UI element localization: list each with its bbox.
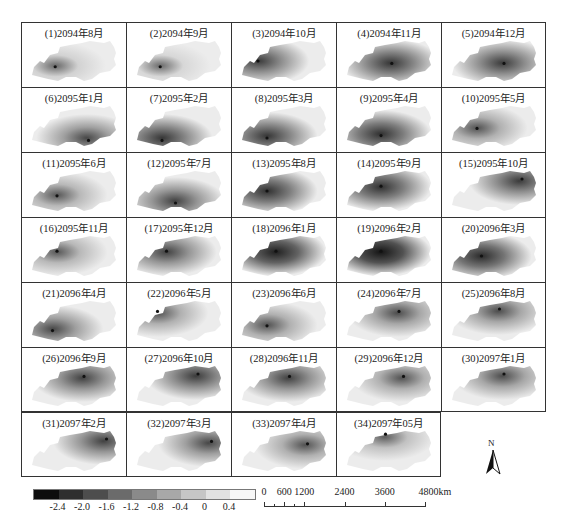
scale-label: 600 [277, 486, 292, 497]
north-arrow-icon [482, 450, 504, 476]
anomaly-map [240, 232, 330, 280]
legend-tick: -2.0 [74, 501, 90, 512]
anomaly-map [135, 102, 225, 150]
map-panel: (22)2096年5月 [126, 282, 231, 347]
anomaly-map [30, 167, 120, 215]
scale-bar: 06001200240036004800km [258, 486, 458, 516]
legend-swatch [181, 490, 206, 499]
scale-tick [284, 502, 285, 507]
anomaly-map [345, 427, 435, 475]
map-panel: (8)2095年3月 [231, 87, 336, 152]
legend-swatch [157, 490, 182, 499]
legend-swatch [59, 490, 84, 499]
legend-swatch [34, 490, 59, 499]
panel-row: (1)2094年8月(2)2094年9月(3)2094年10月(4)2094年1… [21, 22, 546, 87]
scale-label: 3600 [375, 486, 395, 497]
map-panel: (17)2095年12月 [126, 217, 231, 282]
anomaly-map [135, 232, 225, 280]
map-panel: (16)2095年11月 [21, 217, 126, 282]
legend-tick-labels: -2.4-2.0-1.6-1.2-0.8-0.400.4 [33, 500, 256, 514]
anomaly-map [30, 297, 120, 345]
color-legend: -2.4-2.0-1.6-1.2-0.8-0.400.4 [33, 489, 256, 514]
anomaly-map [240, 37, 330, 85]
scale-tick [345, 502, 346, 507]
legend-swatch [132, 490, 157, 499]
map-panel: (11)2095年6月 [21, 152, 126, 217]
map-panel: (15)2095年10月 [441, 152, 546, 217]
map-panel: (5)2094年12月 [441, 22, 546, 87]
anomaly-map [135, 362, 225, 410]
anomaly-map [450, 102, 540, 150]
map-panel: (19)2096年2月 [336, 217, 441, 282]
legend-tick: 0 [202, 501, 207, 512]
anomaly-map [135, 37, 225, 85]
scale-tick [425, 502, 426, 507]
anomaly-map [30, 362, 120, 410]
map-panel: (20)2096年3月 [441, 217, 546, 282]
map-panel: (31)2097年2月 [21, 412, 126, 477]
scale-tick [385, 502, 386, 507]
map-panel: (10)2095年5月 [441, 87, 546, 152]
map-panel: (25)2096年8月 [441, 282, 546, 347]
anomaly-map [345, 37, 435, 85]
panel-row: (6)2095年1月(7)2095年2月(8)2095年3月(9)2095年4月… [21, 87, 546, 152]
map-panel: (13)2095年8月 [231, 152, 336, 217]
north-arrow: N [482, 440, 504, 474]
map-panel: (6)2095年1月 [21, 87, 126, 152]
scale-label: 4800km [419, 486, 452, 497]
legend-swatch [206, 490, 231, 499]
map-panel: (34)2097年05月 [336, 412, 441, 477]
legend-tick: -1.6 [99, 501, 115, 512]
map-panel: (1)2094年8月 [21, 22, 126, 87]
anomaly-map [240, 297, 330, 345]
legend-tick: -1.2 [123, 501, 139, 512]
panel-row: (31)2097年2月(32)2097年3月(33)2097年4月(34)209… [21, 412, 546, 477]
scale-minor-tick [294, 504, 295, 507]
legend-tick: -0.4 [172, 501, 188, 512]
map-panel: (27)2096年10月 [126, 347, 231, 412]
scale-label: 2400 [335, 486, 355, 497]
north-label: N [488, 438, 495, 448]
legend-swatch [83, 490, 108, 499]
anomaly-map [30, 102, 120, 150]
anomaly-map [240, 102, 330, 150]
map-panel: (7)2095年2月 [126, 87, 231, 152]
anomaly-map [345, 297, 435, 345]
legend-tick: -0.8 [148, 501, 164, 512]
map-panel: (23)2096年6月 [231, 282, 336, 347]
panel-row: (21)2096年4月(22)2096年5月(23)2096年6月(24)209… [21, 282, 546, 347]
panel-row: (11)2095年6月(12)2095年7月(13)2095年8月(14)209… [21, 152, 546, 217]
map-panel: (29)2096年12月 [336, 347, 441, 412]
anomaly-map [450, 167, 540, 215]
legend-swatch [108, 490, 133, 499]
map-panel: (21)2096年4月 [21, 282, 126, 347]
legend-tick: 0.4 [223, 501, 236, 512]
anomaly-map [345, 167, 435, 215]
anomaly-map [135, 167, 225, 215]
anomaly-map [240, 427, 330, 475]
panel-row: (26)2096年9月(27)2096年10月(28)2096年11月(29)2… [21, 347, 546, 412]
scale-label: 1200 [294, 486, 314, 497]
anomaly-map [30, 37, 120, 85]
anomaly-map [30, 427, 120, 475]
scale-tick [304, 502, 305, 507]
scale-tick [264, 502, 265, 507]
map-panel-grid: (1)2094年8月(2)2094年9月(3)2094年10月(4)2094年1… [21, 22, 546, 477]
map-panel: (24)2096年7月 [336, 282, 441, 347]
anomaly-map [345, 102, 435, 150]
anomaly-map [450, 297, 540, 345]
anomaly-map [345, 232, 435, 280]
map-panel: (30)2097年1月 [441, 347, 546, 412]
anomaly-map [135, 427, 225, 475]
panel-row: (16)2095年11月(17)2095年12月(18)2096年1月(19)2… [21, 217, 546, 282]
map-panel: (26)2096年9月 [21, 347, 126, 412]
map-panel: (14)2095年9月 [336, 152, 441, 217]
anomaly-map [450, 37, 540, 85]
legend-swatch [230, 490, 255, 499]
legend-tick: -2.4 [50, 501, 66, 512]
legend-color-bar [33, 489, 256, 500]
anomaly-map [450, 362, 540, 410]
anomaly-map [240, 362, 330, 410]
scale-label: 0 [262, 486, 267, 497]
anomaly-map [450, 232, 540, 280]
